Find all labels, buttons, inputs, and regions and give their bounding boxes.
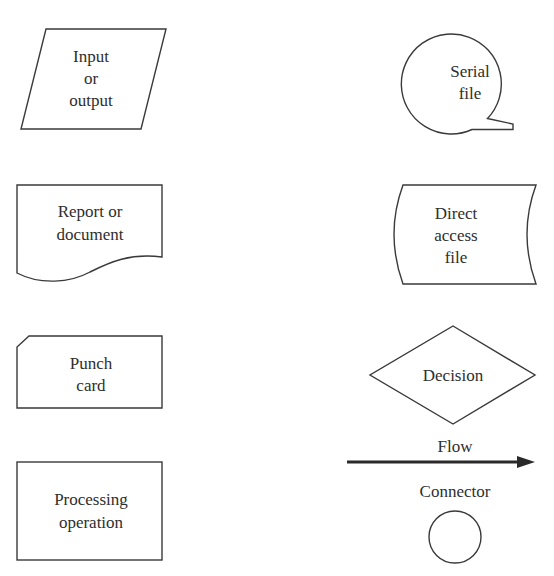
serial-file-shape	[401, 34, 513, 134]
flow-symbol: Flow	[347, 437, 535, 468]
input-output-label-line2: or	[84, 69, 99, 88]
processing-operation-symbol: Processing operation	[17, 462, 162, 560]
punch-card-label-line2: card	[76, 376, 106, 395]
flowchart-symbols-legend: Input or output Serial file Report or do…	[0, 0, 554, 576]
connector-symbol: Connector	[420, 482, 491, 563]
process-rectangle	[17, 462, 162, 560]
input-output-symbol: Input or output	[21, 29, 166, 129]
report-document-label-line2: document	[56, 225, 123, 244]
connector-label: Connector	[420, 482, 491, 501]
connector-circle	[429, 511, 481, 563]
flow-label: Flow	[438, 437, 474, 456]
serial-file-label-line2: file	[459, 84, 482, 103]
input-output-label-line3: output	[69, 91, 113, 110]
punch-card-symbol: Punch card	[17, 336, 162, 408]
direct-access-label-line2: access	[434, 226, 477, 245]
direct-access-label-line1: Direct	[435, 204, 478, 223]
report-document-label-line1: Report or	[58, 202, 123, 221]
serial-file-label-line1: Serial	[450, 62, 490, 81]
decision-symbol: Decision	[370, 326, 535, 424]
processing-label-line2: operation	[59, 513, 124, 532]
decision-label: Decision	[423, 366, 484, 385]
serial-file-symbol: Serial file	[401, 34, 513, 134]
processing-label-line1: Processing	[54, 490, 128, 509]
arrow-head-icon	[517, 456, 535, 468]
input-output-label-line1: Input	[73, 47, 109, 66]
report-document-symbol: Report or document	[17, 185, 162, 281]
punch-card-label-line1: Punch	[70, 354, 113, 373]
direct-access-label-line3: file	[445, 248, 468, 267]
direct-access-file-symbol: Direct access file	[394, 185, 536, 284]
